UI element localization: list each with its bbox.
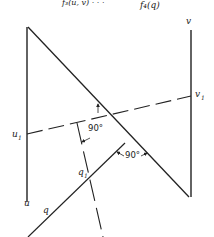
angle-label-upper: 90° bbox=[88, 123, 103, 133]
caption-left: f₃(u, v) · · · bbox=[61, 0, 104, 7]
angle-arrow-lower-b bbox=[141, 153, 147, 156]
label-u: u bbox=[24, 198, 30, 208]
geometry-diagram: f₃(u, v) · · · f₄(q) 90° 90° v v 1 u 1 u… bbox=[0, 0, 214, 237]
diagonal-line bbox=[28, 27, 189, 197]
q-line bbox=[28, 143, 125, 237]
label-q1-sub: 1 bbox=[84, 172, 88, 179]
u1-v1-dashed-line bbox=[27, 96, 191, 134]
q1-dashed-perpendicular bbox=[77, 123, 103, 237]
label-q: q bbox=[43, 205, 49, 215]
label-u1-sub: 1 bbox=[18, 134, 22, 141]
angle-arrow-lower-a bbox=[117, 152, 124, 156]
angle-arrow-upper-b bbox=[82, 138, 90, 142]
label-v1: v bbox=[195, 89, 200, 99]
angle-label-lower: 90° bbox=[125, 150, 140, 160]
caption-f4q: f₄(q) bbox=[139, 0, 160, 10]
label-v1-sub: 1 bbox=[201, 94, 205, 101]
label-v: v bbox=[186, 16, 191, 26]
